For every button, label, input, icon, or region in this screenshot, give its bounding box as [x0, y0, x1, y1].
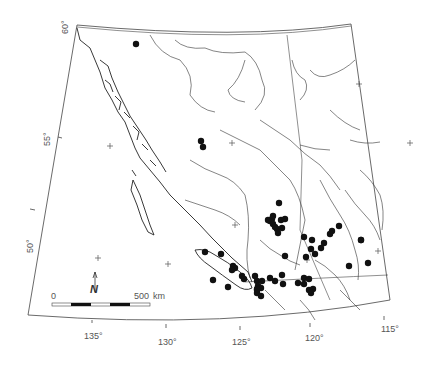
- occurrence-dot: [133, 41, 139, 47]
- latitude-label-60: 60°: [60, 20, 70, 34]
- occurrence-dot: [329, 228, 335, 234]
- graticule-cross: [407, 140, 413, 146]
- occurrence-dot: [308, 290, 314, 296]
- occurrence-dot: [303, 254, 309, 260]
- graticule-cross: [95, 255, 101, 261]
- longitude-label-130: 130°: [158, 337, 177, 347]
- longitude-label-125: 125°: [232, 337, 251, 347]
- occurrence-dot: [301, 234, 307, 240]
- occurrence-dot: [279, 272, 285, 278]
- occurrence-dot: [336, 223, 342, 229]
- occurrence-dot: [254, 286, 260, 292]
- graticule-cross: [165, 261, 171, 267]
- occurrence-dot: [358, 237, 364, 243]
- occurrence-dot: [312, 251, 318, 257]
- occurrence-dot: [198, 138, 204, 144]
- occurrence-dot: [272, 278, 278, 284]
- longitude-label-115: 115°: [381, 324, 399, 334]
- longitude-label-120: 120°: [305, 333, 324, 343]
- graticule-cross: [232, 222, 238, 228]
- scale-end-label: 500: [134, 291, 149, 301]
- occurrence-dot: [308, 246, 314, 252]
- scale-bar: [52, 303, 150, 306]
- occurrence-dot: [295, 280, 301, 286]
- graticule-crosses: [95, 81, 413, 267]
- coastline: [77, 28, 252, 289]
- occurrence-dot: [241, 276, 247, 282]
- map-figure: 60° 55° 50° 135° 130° 125° 120° 115° 0 5…: [0, 0, 428, 367]
- occurrence-dots: [133, 41, 371, 299]
- map-frame: [28, 24, 390, 330]
- occurrence-dot: [218, 251, 224, 257]
- graticule-cross: [107, 143, 113, 149]
- graticule-cross: [229, 140, 235, 146]
- occurrence-dot: [210, 277, 216, 283]
- graticule-cross: [356, 81, 362, 87]
- rivers: [150, 35, 383, 320]
- occurrence-dot: [365, 260, 371, 266]
- latitude-label-50: 50°: [25, 239, 35, 253]
- occurrence-dot: [282, 216, 288, 222]
- occurrence-dot: [265, 217, 271, 223]
- occurrence-dot: [259, 278, 265, 284]
- scale-unit-label: km: [153, 291, 165, 301]
- occurrence-dot: [202, 249, 208, 255]
- occurrence-dot: [309, 237, 315, 243]
- occurrence-dot: [321, 240, 327, 246]
- occurrence-dot: [282, 253, 288, 259]
- occurrence-dot: [276, 200, 282, 206]
- map-canvas: [0, 0, 428, 367]
- occurrence-dot: [229, 267, 235, 273]
- occurrence-dot: [301, 281, 307, 287]
- north-label: N: [90, 283, 98, 295]
- occurrence-dot: [275, 230, 281, 236]
- scale-start-label: 0: [51, 291, 56, 301]
- occurrence-dot: [346, 263, 352, 269]
- latitude-label-55: 55°: [42, 132, 52, 146]
- occurrence-dot: [200, 144, 206, 150]
- longitude-label-135: 135°: [84, 331, 103, 341]
- occurrence-dot: [258, 293, 264, 299]
- occurrence-dot: [225, 284, 231, 290]
- occurrence-dot: [280, 281, 286, 287]
- occurrence-dot: [306, 276, 312, 282]
- occurrence-dot: [279, 225, 285, 231]
- graticule-cross: [375, 248, 381, 254]
